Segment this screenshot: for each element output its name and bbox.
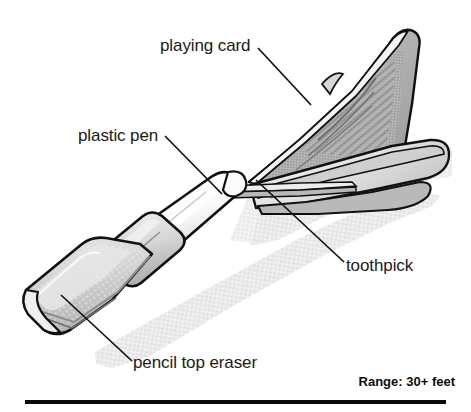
figure-page: playing card plastic pen toothpick penci… [0,0,471,412]
label-plastic-pen: plastic pen [78,126,158,146]
label-toothpick: toothpick [346,256,413,276]
range-annotation: Range: 30+ feet [359,374,455,389]
label-pencil-top-eraser: pencil top eraser [133,353,257,373]
bottom-divider-rule [25,400,446,404]
dart-illustration [0,0,471,412]
leader-plastic-pen [165,136,222,194]
label-playing-card: playing card [160,36,250,56]
leader-playing-card [258,48,311,105]
